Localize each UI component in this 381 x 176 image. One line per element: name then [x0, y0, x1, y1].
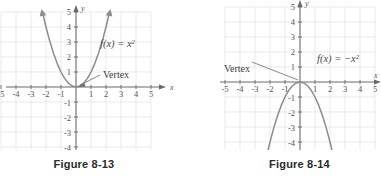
- x-tick-label: 5: [373, 84, 377, 94]
- y-tick-label: 3: [67, 37, 71, 47]
- y-axis-name: y: [80, 4, 85, 13]
- y-tick-label: -4: [288, 138, 296, 148]
- y-tick-label: -3: [64, 128, 71, 138]
- graph-svg-left: -5 -4 -3 -2 -1 1 2 3 4 5 5 4 3 2: [0, 0, 190, 150]
- y-tick-label: 5: [67, 7, 71, 17]
- x-axis-arrow-left: [159, 84, 166, 89]
- y-axis-name: y: [304, 0, 309, 8]
- x-tick-label: -2: [266, 84, 273, 94]
- plot-area-left: -5 -4 -3 -2 -1 1 2 3 4 5 5 4 3 2: [0, 0, 190, 150]
- function-label-right: f(x) = −x2: [317, 53, 360, 66]
- x-tick-label: 3: [119, 89, 123, 99]
- figure-caption-left: Figure 8-13: [0, 158, 190, 170]
- vertex-label-left: Vertex: [103, 69, 129, 80]
- y-tick-labels-right: 5 4 3 2 1 -1 -2 -3 -4 -5: [288, 2, 296, 150]
- figure-caption-right: Figure 8-14: [190, 158, 381, 170]
- vertex-pointer-line-left: [80, 75, 100, 85]
- x-tick-label: 2: [104, 89, 108, 99]
- figure-8-14: -5 -4 -3 -2 -1 1 2 3 4 5 5 4 3 2 1: [190, 0, 381, 176]
- y-axis-arrow-right: [297, 0, 302, 7]
- y-tick-label: -1: [64, 98, 71, 108]
- y-tick-label: -4: [64, 143, 72, 150]
- axes-right: [220, 3, 379, 150]
- x-tick-label: 4: [134, 89, 139, 99]
- x-tick-label: -3: [251, 84, 258, 94]
- x-axis-name: x: [373, 71, 378, 80]
- x-tick-label: 1: [89, 89, 93, 99]
- x-tick-labels-right: -5 -4 -3 -2 -1 1 2 3 4 5: [221, 84, 377, 94]
- y-tick-label: 2: [291, 47, 295, 57]
- vertex-label-right: Vertex: [224, 63, 250, 74]
- x-tick-label: -3: [27, 89, 34, 99]
- x-tick-label: -5: [0, 89, 5, 99]
- x-tick-label: -4: [236, 84, 244, 94]
- graph-svg-right: -5 -4 -3 -2 -1 1 2 3 4 5 5 4 3 2 1: [190, 0, 381, 150]
- y-axis-arrow-left: [73, 5, 78, 12]
- x-tick-label: -2: [42, 89, 49, 99]
- y-tick-label: 3: [291, 32, 295, 42]
- axes-left: [6, 8, 162, 150]
- x-tick-label: 1: [313, 84, 317, 94]
- plot-area-right: -5 -4 -3 -2 -1 1 2 3 4 5 5 4 3 2 1: [190, 0, 381, 150]
- x-tick-label: 3: [343, 84, 347, 94]
- x-tick-label: 4: [358, 84, 363, 94]
- figure-8-13: -5 -4 -3 -2 -1 1 2 3 4 5 5 4 3 2: [0, 0, 190, 176]
- curve-arrow-left-branch: [40, 9, 47, 17]
- x-tick-label: 5: [149, 89, 153, 99]
- x-axis-name: x: [169, 83, 174, 92]
- y-tick-label: -2: [64, 113, 71, 123]
- y-tick-label: -3: [288, 123, 295, 133]
- y-tick-label: -1: [288, 93, 295, 103]
- x-tick-labels-left: -5 -4 -3 -2 -1 1 2 3 4 5: [0, 89, 153, 99]
- y-tick-label: 5: [291, 2, 295, 12]
- x-tick-label: -5: [221, 84, 228, 94]
- x-tick-label: 2: [328, 84, 332, 94]
- figures-row: -5 -4 -3 -2 -1 1 2 3 4 5 5 4 3 2: [0, 0, 381, 176]
- y-tick-label: 2: [67, 52, 71, 62]
- y-tick-label: 1: [291, 62, 295, 72]
- function-label-left: f(x) = x2: [100, 38, 136, 51]
- y-tick-label: 1: [67, 67, 71, 77]
- curve-arrow-right-branch: [106, 9, 113, 17]
- y-tick-label: -2: [288, 108, 295, 118]
- x-tick-label: -4: [12, 89, 20, 99]
